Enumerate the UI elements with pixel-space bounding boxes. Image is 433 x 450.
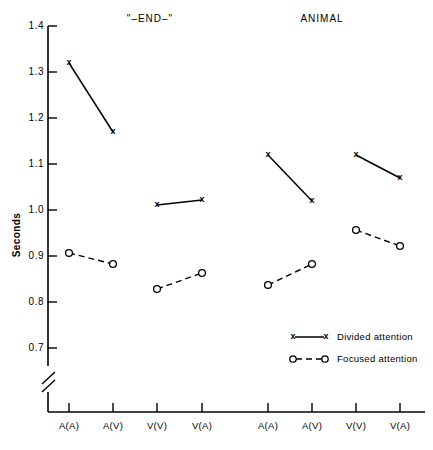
- x-tick-label: V(A): [390, 420, 410, 431]
- y-tick: 1.1: [29, 158, 57, 169]
- segment-divided-end-auditory: [69, 63, 113, 132]
- series-divided-attention: x x x x x x x x: [66, 57, 402, 209]
- y-axis-title: Seconds: [11, 213, 22, 258]
- y-tick: 0.7: [29, 342, 57, 353]
- x-tick-label: A(V): [103, 420, 123, 431]
- y-tick-label: 1.0: [29, 204, 44, 215]
- data-marker-x: x: [265, 149, 270, 159]
- chart-legend: x x Divided attention Focused attention: [290, 331, 418, 364]
- y-tick-label: 0.7: [29, 342, 44, 353]
- x-tick-label: V(V): [147, 420, 167, 431]
- segment-focused-end-visual: [157, 273, 202, 289]
- legend-marker-o: [290, 356, 296, 362]
- legend-label-divided: Divided attention: [337, 331, 413, 342]
- y-tick-label: 1.3: [29, 66, 44, 77]
- segment-divided-animal-auditory: [268, 155, 312, 201]
- x-tick: A(V): [302, 403, 322, 431]
- data-marker-x: x: [110, 126, 115, 136]
- data-marker-o: [110, 261, 117, 268]
- segment-focused-animal-visual: [356, 230, 400, 246]
- y-tick-label: 0.9: [29, 250, 44, 261]
- data-marker-x: x: [353, 149, 358, 159]
- y-tick: 0.9: [29, 250, 57, 261]
- y-tick-label: 1.2: [29, 112, 44, 123]
- x-tick: A(A): [59, 403, 79, 431]
- x-tick-label: A(V): [302, 420, 322, 431]
- x-tick: V(A): [192, 403, 212, 431]
- x-tick: V(V): [147, 403, 167, 431]
- data-marker-o: [397, 243, 404, 250]
- legend-item-focused: Focused attention: [290, 353, 418, 364]
- series-focused-attention: [66, 227, 404, 293]
- y-axis-break-icon: [42, 372, 55, 392]
- data-marker-o: [309, 261, 316, 268]
- x-tick-label: V(V): [346, 420, 366, 431]
- y-tick: 0.8: [29, 296, 57, 307]
- data-marker-x: x: [66, 57, 71, 67]
- x-tick: A(V): [103, 403, 123, 431]
- y-tick: 1.4: [29, 20, 57, 31]
- data-marker-o: [154, 286, 161, 293]
- legend-marker-x: x: [290, 331, 295, 341]
- y-tick: 1.2: [29, 112, 57, 123]
- data-marker-o: [353, 227, 360, 234]
- x-tick-label: V(A): [192, 420, 212, 431]
- group-title-animal: ANIMAL: [300, 13, 343, 24]
- data-marker-x: x: [309, 195, 314, 205]
- y-tick-label: 1.4: [29, 20, 44, 31]
- x-tick-label: A(A): [258, 420, 278, 431]
- legend-label-focused: Focused attention: [337, 353, 418, 364]
- legend-marker-o: [322, 356, 328, 362]
- data-marker-o: [265, 282, 272, 289]
- segment-focused-animal-auditory: [268, 264, 312, 285]
- x-ticks: A(A) A(V) V(V) V(A) A(A) A(V) V(V) V(A): [59, 403, 410, 431]
- segment-focused-end-auditory: [69, 253, 113, 264]
- segment-divided-animal-visual: [356, 155, 400, 178]
- y-tick: 1.3: [29, 66, 57, 77]
- x-tick-label: A(A): [59, 420, 79, 431]
- segment-divided-end-visual: [157, 200, 202, 205]
- data-marker-x: x: [154, 199, 159, 209]
- x-tick: A(A): [258, 403, 278, 431]
- legend-item-divided: x x Divided attention: [290, 331, 412, 342]
- y-tick-label: 0.8: [29, 296, 44, 307]
- data-marker-x: x: [397, 172, 402, 182]
- data-marker-o: [199, 270, 206, 277]
- data-marker-o: [66, 250, 73, 257]
- y-ticks: 1.4 1.3 1.2 1.1 1.0 0.9 0.8 0.7: [29, 20, 57, 353]
- x-tick: V(A): [390, 403, 410, 431]
- group-title-end: "–END–": [127, 13, 173, 24]
- chart-container: Seconds 1.4 1.3 1.2 1.1 1.0: [0, 0, 433, 450]
- attention-line-chart: Seconds 1.4 1.3 1.2 1.1 1.0: [0, 0, 433, 450]
- y-tick-label: 1.1: [29, 158, 44, 169]
- legend-marker-x: x: [323, 331, 328, 341]
- data-marker-x: x: [199, 194, 204, 204]
- x-tick: V(V): [346, 403, 366, 431]
- y-tick: 1.0: [29, 204, 57, 215]
